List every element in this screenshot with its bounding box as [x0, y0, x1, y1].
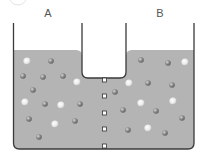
solute-particle	[145, 80, 151, 86]
solute-particle	[72, 118, 78, 124]
solvent-particle	[73, 78, 80, 85]
u-tube-diagram	[0, 0, 203, 161]
solvent-particle	[57, 101, 64, 108]
solute-particle	[30, 87, 36, 93]
solvent-particle	[125, 79, 132, 86]
membrane-pore	[103, 127, 107, 131]
label-chamber-a: A	[38, 7, 58, 19]
solute-particle	[42, 101, 48, 107]
solvent-particle	[181, 58, 188, 65]
solute-particle	[112, 89, 118, 95]
membrane-pore	[103, 94, 107, 98]
solute-particle	[153, 108, 159, 114]
solute-particle	[179, 115, 185, 121]
solute-particle	[26, 116, 32, 122]
solvent-particle	[21, 98, 28, 105]
membrane-pore	[103, 111, 107, 115]
solute-particle	[77, 101, 83, 107]
label-chamber-b: B	[150, 7, 170, 19]
solvent-particle	[144, 124, 151, 131]
solvent-particle	[23, 57, 30, 64]
solute-particle	[48, 58, 54, 64]
solute-particle	[169, 82, 175, 88]
solvent-particle	[51, 120, 58, 127]
membrane-pore	[103, 78, 107, 82]
solute-particle	[20, 73, 26, 79]
center-divider	[82, 23, 126, 78]
solvent-particle	[137, 99, 144, 106]
solute-particle	[162, 130, 168, 136]
solute-particle	[36, 134, 42, 140]
corner-mark	[9, 0, 27, 5]
solute-particle	[138, 57, 144, 63]
solvent-particle	[169, 97, 176, 104]
solute-particle	[60, 73, 66, 79]
membrane-pore	[103, 144, 107, 148]
solute-particle	[40, 74, 46, 80]
solute-particle	[120, 107, 126, 113]
solute-particle	[125, 127, 131, 133]
solute-particle	[165, 60, 171, 66]
